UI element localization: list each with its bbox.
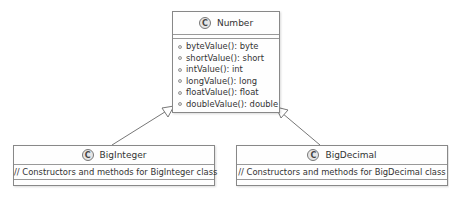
method-item: floatValue(): float (178, 87, 279, 99)
method-item: shortValue(): short (178, 53, 279, 65)
class-header: C Number (173, 12, 279, 35)
class-name: Number (217, 18, 253, 28)
method-item: doubleValue(): double (178, 99, 279, 111)
inheritance-line-bigdecimal (282, 113, 320, 145)
method-item: longValue(): long (178, 76, 279, 88)
class-icon: C (82, 149, 94, 161)
class-header: C BigInteger (14, 146, 214, 165)
public-method-icon (178, 79, 182, 83)
public-method-icon (178, 68, 182, 72)
class-number[interactable]: C Number byteValue(): byte shortValue():… (172, 11, 280, 113)
class-biginteger[interactable]: C BigInteger // Constructors and methods… (13, 145, 215, 186)
public-method-icon (178, 56, 182, 60)
class-name: BigInteger (100, 150, 147, 160)
public-method-icon (178, 102, 182, 106)
method-list: byteValue(): byte shortValue(): short in… (173, 39, 279, 113)
class-header: C BigDecimal (237, 146, 447, 165)
method-item: intValue(): int (178, 64, 279, 76)
class-icon: C (307, 149, 319, 161)
class-name: BigDecimal (325, 150, 376, 160)
class-comment: // Constructors and methods for BigDecim… (237, 165, 447, 180)
public-method-icon (178, 91, 182, 95)
class-comment: // Constructors and methods for BigInteg… (14, 165, 214, 180)
class-icon: C (199, 17, 211, 29)
inheritance-line-biginteger (112, 110, 168, 145)
class-bigdecimal[interactable]: C BigDecimal // Constructors and methods… (236, 145, 448, 186)
method-item: byteValue(): byte (178, 41, 279, 53)
public-method-icon (178, 45, 182, 49)
